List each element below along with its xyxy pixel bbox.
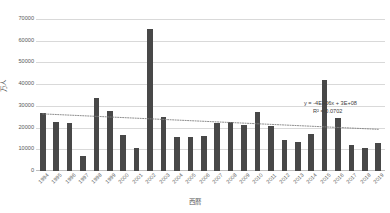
bar-slot bbox=[318, 19, 331, 171]
x-axis-slot: 2001 bbox=[130, 172, 143, 196]
bar bbox=[40, 113, 46, 171]
bar bbox=[295, 142, 301, 171]
bar-slot bbox=[90, 19, 103, 171]
bar-slot bbox=[345, 19, 358, 171]
bar-slot bbox=[358, 19, 371, 171]
x-axis-tick-label: 2017 bbox=[345, 172, 358, 185]
bar bbox=[228, 122, 234, 172]
x-axis-tick-label: 2010 bbox=[251, 172, 264, 185]
x-axis-tick-label: 1999 bbox=[104, 172, 117, 185]
bar-slot bbox=[264, 19, 277, 171]
bar-slot bbox=[331, 19, 344, 171]
bar-slot bbox=[291, 19, 304, 171]
bar bbox=[362, 148, 368, 171]
bar-slot bbox=[36, 19, 49, 171]
trendline-equation: y = -4E+06x + 3E+08 bbox=[304, 99, 357, 107]
y-axis-tick-label: 50000 bbox=[0, 60, 34, 66]
y-axis-tick-label: 20000 bbox=[0, 125, 34, 131]
x-axis-title: 西暦 bbox=[0, 197, 390, 206]
bar-slot bbox=[197, 19, 210, 171]
x-axis-slot: 2018 bbox=[358, 172, 371, 196]
bar-slot bbox=[76, 19, 89, 171]
x-axis-slot: 2002 bbox=[143, 172, 156, 196]
bar bbox=[201, 136, 207, 171]
bar bbox=[268, 126, 274, 171]
x-axis-tick-label: 2002 bbox=[144, 172, 157, 185]
x-axis-tick-label: 2012 bbox=[278, 172, 291, 185]
x-axis-tick-label: 2016 bbox=[332, 172, 345, 185]
bar bbox=[80, 156, 86, 171]
x-axis-slot: 2013 bbox=[291, 172, 304, 196]
bar-series bbox=[36, 19, 385, 171]
bar bbox=[335, 118, 341, 171]
bar-slot bbox=[130, 19, 143, 171]
x-axis-tick-label: 1998 bbox=[90, 172, 103, 185]
bar bbox=[107, 111, 113, 171]
x-axis-slot: 1996 bbox=[63, 172, 76, 196]
bar-slot bbox=[224, 19, 237, 171]
bar bbox=[375, 143, 381, 171]
x-axis-labels: 1994199519961997199819992000200120022003… bbox=[36, 172, 385, 196]
bar bbox=[322, 80, 328, 171]
bar-slot bbox=[117, 19, 130, 171]
bar-slot bbox=[278, 19, 291, 171]
x-axis-tick-label: 2018 bbox=[359, 172, 372, 185]
x-axis-slot: 2015 bbox=[318, 172, 331, 196]
bar bbox=[188, 137, 194, 171]
x-axis-slot: 2019 bbox=[372, 172, 385, 196]
x-axis-slot: 2016 bbox=[331, 172, 344, 196]
x-axis-tick-label: 2011 bbox=[265, 172, 277, 184]
x-axis-tick-label: 2015 bbox=[319, 172, 332, 185]
y-axis-labels: 700006000050000400003000020000100000 bbox=[0, 19, 36, 171]
x-axis-slot: 2014 bbox=[304, 172, 317, 196]
x-axis-tick-label: 2001 bbox=[131, 172, 144, 185]
bar bbox=[241, 125, 247, 171]
bar bbox=[53, 122, 59, 172]
x-axis-tick-label: 2007 bbox=[211, 172, 224, 185]
y-axis-tick-label: 30000 bbox=[0, 103, 34, 109]
y-axis-tick-label: 60000 bbox=[0, 38, 34, 44]
bar bbox=[214, 123, 220, 171]
bar-slot bbox=[372, 19, 385, 171]
bar bbox=[161, 117, 167, 171]
x-axis-slot: 2009 bbox=[237, 172, 250, 196]
bar bbox=[282, 140, 288, 171]
bar bbox=[67, 123, 73, 171]
y-axis-tick-label: 40000 bbox=[0, 82, 34, 88]
x-axis-tick-label: 1997 bbox=[77, 172, 90, 185]
bar bbox=[94, 98, 100, 171]
x-axis-slot: 1995 bbox=[49, 172, 62, 196]
bar-slot bbox=[170, 19, 183, 171]
y-axis-tick-label: 70000 bbox=[0, 16, 34, 22]
bar-slot bbox=[304, 19, 317, 171]
bar-slot bbox=[184, 19, 197, 171]
x-axis-tick-label: 1996 bbox=[64, 172, 77, 185]
bar-chart: 万人 700006000050000400003000020000100000 … bbox=[0, 0, 390, 213]
x-axis-tick-label: 2009 bbox=[238, 172, 251, 185]
x-axis-tick-label: 2014 bbox=[305, 172, 318, 185]
x-axis-slot: 2011 bbox=[264, 172, 277, 196]
bar-slot bbox=[63, 19, 76, 171]
bar-slot bbox=[49, 19, 62, 171]
plot-area bbox=[36, 19, 385, 171]
bar-slot bbox=[251, 19, 264, 171]
x-axis-tick-label: 2003 bbox=[157, 172, 170, 185]
x-axis-tick-label: 2004 bbox=[171, 172, 184, 185]
y-axis-tick-label: 0 bbox=[0, 168, 34, 174]
bar-slot bbox=[103, 19, 116, 171]
x-axis-tick-label: 2019 bbox=[372, 172, 385, 185]
x-axis-tick-label: 1994 bbox=[37, 172, 50, 185]
bar bbox=[308, 134, 314, 171]
bar bbox=[120, 135, 126, 171]
bar bbox=[147, 29, 153, 171]
trendline-r-squared: R² = 0.0702 bbox=[304, 107, 357, 115]
x-axis-tick-label: 2008 bbox=[225, 172, 238, 185]
bar-slot bbox=[237, 19, 250, 171]
x-axis-slot: 2005 bbox=[184, 172, 197, 196]
x-axis-tick-label: 1995 bbox=[50, 172, 63, 185]
bar bbox=[349, 145, 355, 171]
x-axis-slot: 2008 bbox=[224, 172, 237, 196]
bar bbox=[174, 137, 180, 171]
x-axis-slot: 1999 bbox=[103, 172, 116, 196]
x-axis-slot: 1994 bbox=[36, 172, 49, 196]
